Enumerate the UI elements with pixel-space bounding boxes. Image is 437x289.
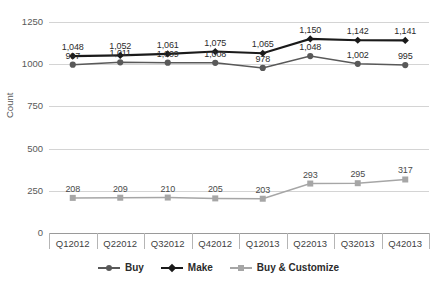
x-axis-category-label: Q32012 [144, 238, 192, 249]
x-axis-category-label: Q42012 [192, 238, 240, 249]
data-label: 1,142 [347, 26, 369, 36]
legend-marker-icon [230, 263, 252, 273]
data-point-marker [355, 180, 361, 186]
data-label: 1,141 [394, 26, 416, 36]
legend-label: Buy [125, 262, 144, 273]
x-axis-category-label: Q12012 [49, 238, 97, 249]
data-point-marker [402, 176, 408, 182]
data-label: 978 [255, 54, 270, 64]
y-axis-tick-label: 0 [3, 227, 43, 238]
y-axis-tick-label: 750 [3, 100, 43, 111]
data-label: 203 [255, 185, 270, 195]
data-point-marker [117, 195, 123, 201]
y-axis-tick-label: 250 [3, 185, 43, 196]
data-point-marker [70, 62, 76, 68]
data-point-marker [307, 53, 313, 59]
y-axis-tick-label: 1250 [3, 16, 43, 27]
data-label: 205 [208, 184, 223, 194]
data-point-marker [212, 60, 218, 66]
x-axis-tick [429, 233, 430, 249]
legend-label: Make [188, 262, 213, 273]
data-label: 1,008 [204, 49, 226, 59]
data-label: 1,048 [299, 42, 321, 52]
legend-marker-icon [161, 263, 183, 273]
legend-item-buy[interactable]: Buy [98, 262, 144, 273]
data-label: 1,002 [347, 50, 369, 60]
legend-label: Buy & Customize [257, 262, 339, 273]
chart-legend: BuyMakeBuy & Customize [0, 262, 437, 273]
legend-marker-icon [98, 263, 120, 273]
x-axis-category-label: Q22012 [97, 238, 145, 249]
legend-item-make[interactable]: Make [161, 262, 213, 273]
data-label: 209 [113, 184, 128, 194]
plot-area: 9971,0111,0091,0089781,0481,0029951,0481… [49, 22, 429, 233]
data-label: 1,061 [157, 40, 179, 50]
data-label: 293 [303, 170, 318, 180]
data-point-marker [165, 195, 171, 201]
series-layer [49, 22, 429, 233]
x-axis-category-label: Q32013 [334, 238, 382, 249]
data-label: 295 [350, 169, 365, 179]
data-point-marker [307, 181, 313, 187]
chart-title-clipped [0, 0, 437, 4]
data-label: 1,052 [109, 41, 131, 51]
data-label: 1,075 [204, 38, 226, 48]
data-point-marker [260, 65, 266, 71]
x-axis-category-label: Q22013 [287, 238, 335, 249]
data-label: 317 [398, 165, 413, 175]
data-point-marker [165, 60, 171, 66]
y-axis-tick-label: 1000 [3, 58, 43, 69]
data-label: 208 [65, 184, 80, 194]
data-point-marker [355, 61, 361, 67]
data-label: 210 [160, 184, 175, 194]
data-point-marker [402, 62, 408, 68]
data-point-marker [260, 196, 266, 202]
chart-container: Count 9971,0111,0091,0089781,0481,002995… [0, 0, 437, 289]
data-label: 1,150 [299, 25, 321, 35]
x-axis-category-label: Q42013 [382, 238, 430, 249]
data-label: 1,048 [62, 42, 84, 52]
data-point-marker [70, 195, 76, 201]
data-point-marker [117, 59, 123, 65]
data-label: 995 [398, 51, 413, 61]
x-axis-category-label: Q12013 [239, 238, 287, 249]
data-point-marker [354, 37, 361, 44]
data-label: 997 [65, 51, 80, 61]
data-point-marker [212, 195, 218, 201]
data-point-marker [402, 37, 409, 44]
data-label: 1,065 [252, 39, 274, 49]
y-axis-tick-label: 500 [3, 143, 43, 154]
data-label: 1,009 [157, 49, 179, 59]
legend-item-buy-customize[interactable]: Buy & Customize [230, 262, 339, 273]
